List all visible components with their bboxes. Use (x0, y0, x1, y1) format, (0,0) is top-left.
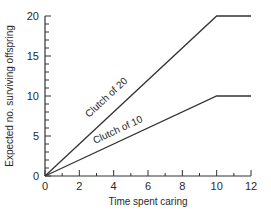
y-axis-title: Expected no. surviving offspring (4, 25, 15, 167)
y-tick-label: 15 (27, 50, 39, 62)
series-label-clutch-20: Clutch of 20 (83, 75, 130, 120)
chart: 05101520 024681012 Time spent caring Exp… (0, 0, 271, 217)
x-tick-label: 0 (42, 180, 48, 192)
series-lines (45, 16, 251, 176)
x-tick-label: 6 (145, 180, 151, 192)
y-tick-label: 10 (27, 90, 39, 102)
x-tick-label: 12 (245, 180, 257, 192)
series-label-clutch-10: Clutch of 10 (91, 113, 144, 146)
y-ticks: 05101520 (27, 10, 51, 182)
x-ticks: 024681012 (42, 170, 257, 192)
x-tick-label: 2 (76, 180, 82, 192)
y-tick-label: 5 (33, 130, 39, 142)
x-tick-label: 4 (111, 180, 117, 192)
y-tick-label: 20 (27, 10, 39, 22)
y-tick-label: 0 (33, 170, 39, 182)
x-tick-label: 10 (211, 180, 223, 192)
x-axis-title: Time spent caring (108, 196, 187, 207)
x-tick-label: 8 (179, 180, 185, 192)
series-line-1 (45, 96, 251, 176)
